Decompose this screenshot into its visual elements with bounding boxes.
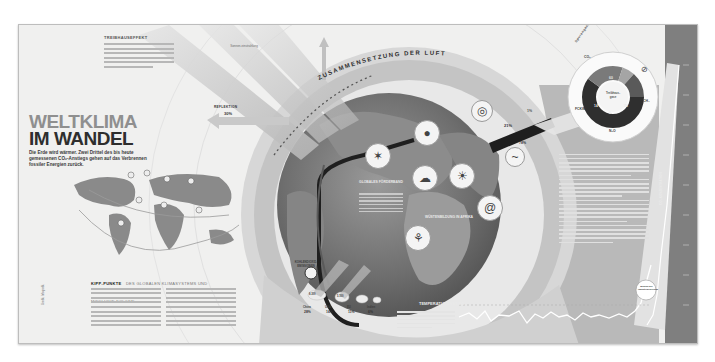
donut-center-label: Treibhaus-gase <box>605 91 621 99</box>
storm-cloud-icon: ☁ <box>412 165 438 191</box>
donut-label-n2o: N₂O <box>609 129 616 133</box>
mosquito-icon: ✶ <box>365 143 391 169</box>
emission-share-2: 16% <box>326 310 333 314</box>
donut-seg-fckw: 14 <box>594 104 598 108</box>
globe-center-text <box>359 191 403 215</box>
right-text-panel <box>559 151 649 246</box>
emission-country-1: China <box>303 305 311 309</box>
emission-country-3: EU <box>347 305 351 309</box>
industrialisation-badge: Beginn der Industrialisierung <box>638 285 655 291</box>
co2-emissions-label: KOHLENDIOXID-EMISSIONEN <box>289 260 323 268</box>
emission-value-2: 5.100 <box>337 295 344 298</box>
emission-value-1: 8.300 <box>309 293 316 296</box>
other-pct: 1% <box>527 109 532 113</box>
emission-country-2: USA <box>325 305 331 309</box>
co2-bar-label: CO₂-KONZENTRATION <box>659 172 663 205</box>
wave-icon: ~ <box>505 147 525 167</box>
donut-seg-co2: 60 <box>609 76 613 80</box>
temperature-text <box>397 309 455 330</box>
donut-seg-ch4: 20 <box>624 104 628 108</box>
sun-icon: ☀ <box>449 163 475 189</box>
temperature-title: TEMPERATURANSTIEG <box>419 301 464 306</box>
donut-label-co2: CO₂ <box>584 55 591 59</box>
africa-label: WÜSTENBILDUNG IN AFRIKA <box>419 215 479 219</box>
dead-tree-icon: ⚘ <box>405 225 431 251</box>
donut-label-fckw: FCKW <box>575 107 585 111</box>
nitrogen-pct: 78% <box>519 141 526 145</box>
infographic-page: TREIBHAUSEFFEKT Sonnen-einstrahlung REFL… <box>18 24 698 344</box>
emission-share-4: 6% <box>368 310 373 314</box>
mountain-icon: ◎ <box>471 100 493 122</box>
emission-share-1: 28% <box>304 310 311 314</box>
oxygen-pct: 21% <box>504 123 512 128</box>
donut-seg-n2o: 6 <box>609 111 611 115</box>
emission-share-3: 11% <box>348 310 355 314</box>
no-smoking-icon: ⊘ <box>641 65 648 74</box>
donut-label-ch4: CH₄ <box>643 99 650 103</box>
hurricane-icon: @ <box>477 195 503 221</box>
emission-country-4: Indien <box>367 305 375 309</box>
globe-center-kicker: GLOBALES FÖRDERBAND <box>359 180 407 184</box>
svg-text:ZUSAMMENSETZUNG DER LUFT: ZUSAMMENSETZUNG DER LUFT <box>317 50 446 81</box>
drops-icon: ● <box>414 120 440 146</box>
